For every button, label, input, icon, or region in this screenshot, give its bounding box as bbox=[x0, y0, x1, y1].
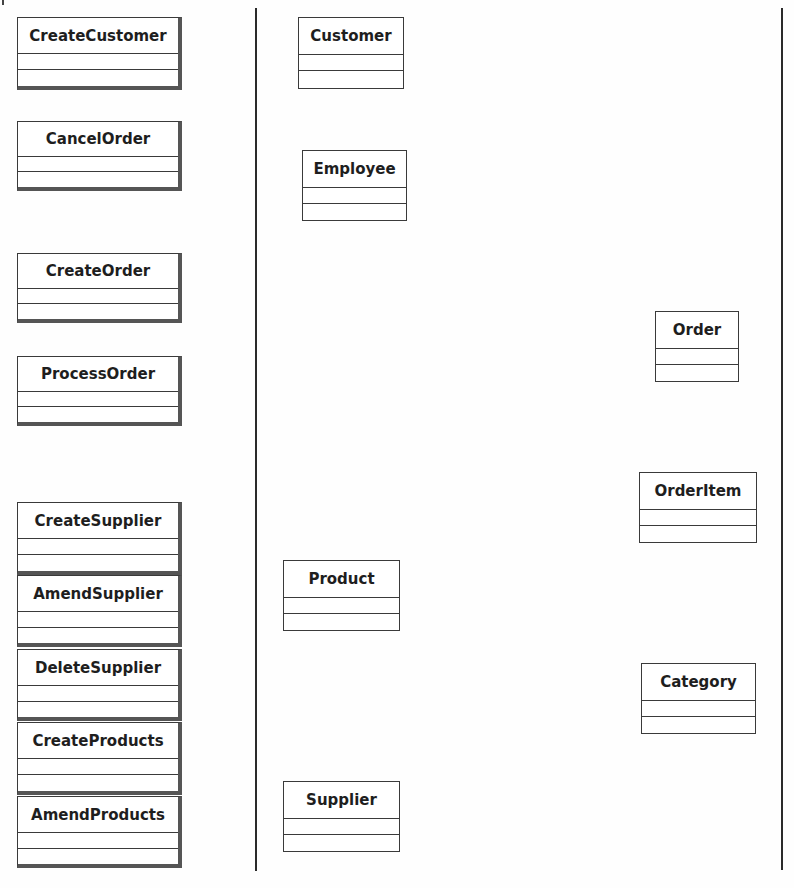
class-amend-products[interactable]: AmendProducts bbox=[17, 796, 182, 868]
class-create-supplier[interactable]: CreateSupplier bbox=[17, 502, 182, 575]
operations-compartment bbox=[18, 407, 178, 422]
operations-compartment bbox=[18, 70, 178, 86]
attributes-compartment bbox=[18, 686, 178, 702]
operations-compartment bbox=[18, 849, 178, 864]
class-name: CreateSupplier bbox=[18, 503, 178, 539]
class-create-order[interactable]: CreateOrder bbox=[17, 253, 182, 323]
class-customer[interactable]: Customer bbox=[298, 17, 404, 89]
attributes-compartment bbox=[284, 598, 399, 614]
attributes-compartment bbox=[642, 701, 755, 717]
attributes-compartment bbox=[18, 157, 178, 172]
class-name: Order bbox=[656, 312, 738, 349]
class-process-order[interactable]: ProcessOrder bbox=[17, 356, 182, 426]
operations-compartment bbox=[284, 614, 399, 630]
attributes-compartment bbox=[640, 510, 756, 526]
class-name: CreateOrder bbox=[18, 254, 178, 289]
class-name: CreateCustomer bbox=[18, 18, 178, 54]
class-name: CreateProducts bbox=[18, 723, 178, 759]
operations-compartment bbox=[642, 717, 755, 733]
class-name: Supplier bbox=[284, 782, 399, 819]
class-name: Product bbox=[284, 561, 399, 598]
operations-compartment bbox=[18, 628, 178, 643]
operations-compartment bbox=[656, 365, 738, 381]
class-name: Employee bbox=[303, 151, 406, 188]
class-name: AmendSupplier bbox=[18, 576, 178, 612]
class-supplier[interactable]: Supplier bbox=[283, 781, 400, 852]
class-name: CancelOrder bbox=[18, 122, 178, 157]
class-create-customer[interactable]: CreateCustomer bbox=[17, 17, 182, 90]
attributes-compartment bbox=[18, 54, 178, 70]
right-divider bbox=[781, 8, 783, 870]
class-amend-supplier[interactable]: AmendSupplier bbox=[17, 575, 182, 647]
operations-compartment bbox=[18, 304, 178, 319]
attributes-compartment bbox=[18, 392, 178, 407]
operations-compartment bbox=[299, 71, 403, 88]
attributes-compartment bbox=[18, 759, 178, 775]
class-cancel-order[interactable]: CancelOrder bbox=[17, 121, 182, 191]
class-name: OrderItem bbox=[640, 473, 756, 510]
class-order[interactable]: Order bbox=[655, 311, 739, 382]
diagram-canvas: CreateCustomerCancelOrderCreateOrderProc… bbox=[0, 0, 794, 888]
attributes-compartment bbox=[18, 612, 178, 628]
attributes-compartment bbox=[18, 833, 178, 849]
class-name: DeleteSupplier bbox=[18, 650, 178, 686]
attributes-compartment bbox=[299, 55, 403, 71]
class-delete-supplier[interactable]: DeleteSupplier bbox=[17, 649, 182, 721]
class-name: AmendProducts bbox=[18, 797, 178, 833]
class-category[interactable]: Category bbox=[641, 663, 756, 734]
class-product[interactable]: Product bbox=[283, 560, 400, 631]
class-employee[interactable]: Employee bbox=[302, 150, 407, 221]
attributes-compartment bbox=[303, 188, 406, 204]
attributes-compartment bbox=[18, 539, 178, 555]
attributes-compartment bbox=[18, 289, 178, 304]
attributes-compartment bbox=[656, 349, 738, 365]
operations-compartment bbox=[18, 172, 178, 187]
operations-compartment bbox=[640, 526, 756, 542]
class-name: Category bbox=[642, 664, 755, 701]
class-name: Customer bbox=[299, 18, 403, 55]
operations-compartment bbox=[18, 775, 178, 791]
operations-compartment bbox=[303, 204, 406, 220]
attributes-compartment bbox=[284, 819, 399, 835]
operations-compartment bbox=[284, 835, 399, 851]
class-create-products[interactable]: CreateProducts bbox=[17, 722, 182, 795]
operations-compartment bbox=[18, 702, 178, 717]
class-name: ProcessOrder bbox=[18, 357, 178, 392]
operations-compartment bbox=[18, 555, 178, 571]
left-divider bbox=[255, 8, 257, 871]
class-order-item[interactable]: OrderItem bbox=[639, 472, 757, 543]
corner-mark bbox=[2, 0, 4, 5]
